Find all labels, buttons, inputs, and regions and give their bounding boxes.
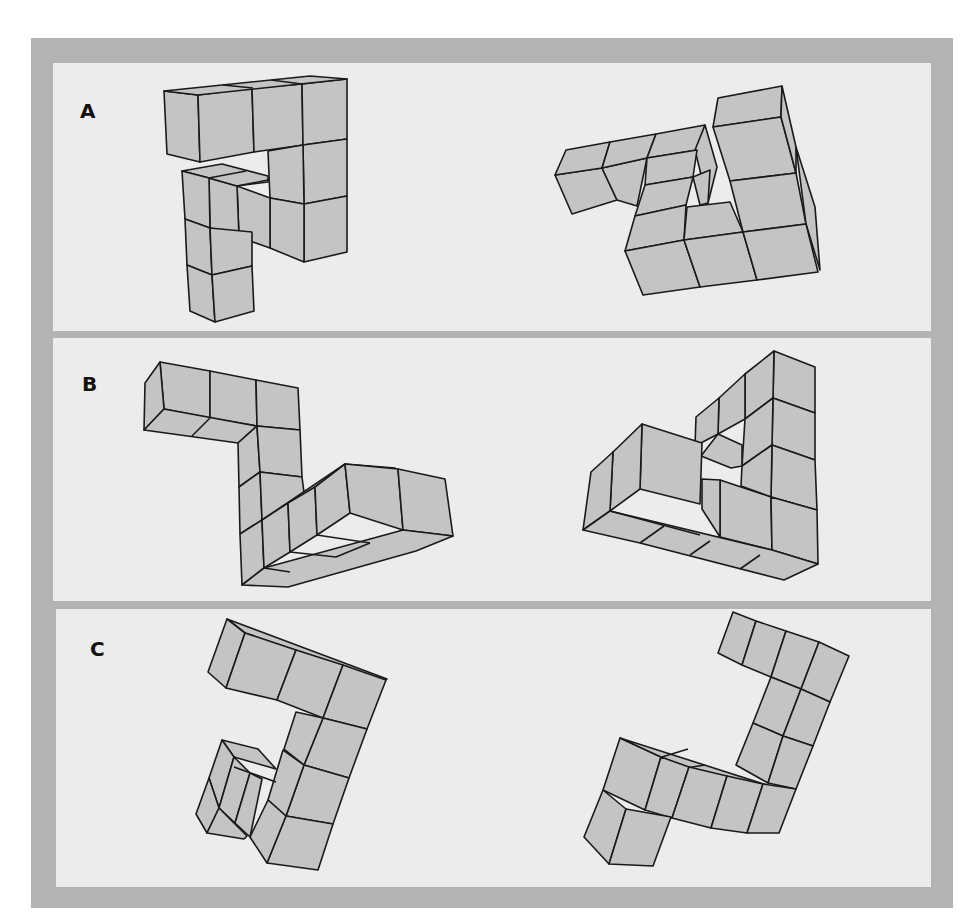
panel-label-b: B <box>82 372 97 396</box>
panel-label-a: A <box>80 99 95 123</box>
mental-rotation-figure <box>0 0 960 917</box>
panel-label-c: C <box>90 637 105 661</box>
